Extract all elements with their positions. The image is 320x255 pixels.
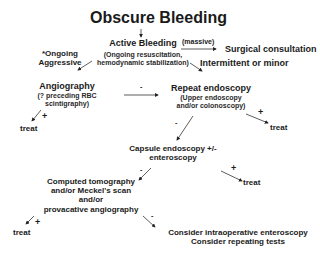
repeat-endoscopy-sub1: (Upper endoscopy (166, 94, 256, 102)
arrow-repeat-to-capsule (177, 116, 193, 140)
angiography-sub2: scintigraphy) (22, 100, 112, 108)
arrow-repeat-to-treat (246, 114, 268, 123)
active-bleeding-sub1: (Ongoing resuscitation, (96, 51, 190, 59)
edge-label-ct-neg: - (151, 212, 153, 219)
node-treat-2: treat (270, 123, 287, 132)
consider-line1: Consider intraoperative enteroscopy (163, 228, 313, 237)
capsule-line1: Capsule endoscopy +/- (118, 144, 228, 153)
active-bleeding-sub2: hemodynamic stabilization) (96, 59, 190, 67)
consider-line2: Consider repeating tests (163, 237, 313, 246)
edge-label-capsule-pos: + (231, 163, 236, 173)
repeat-endoscopy-label: Repeat endoscopy (166, 83, 256, 93)
edge-label-angio-neg: - (140, 83, 142, 90)
active-bleeding-label: Active Bleeding (96, 38, 190, 48)
node-treat-3: treat (243, 178, 260, 187)
arrow-ct-to-treat (26, 216, 34, 224)
edge-label-ct-pos: + (35, 217, 40, 227)
ct-line4: provacative angiography (36, 205, 146, 214)
node-repeat-endoscopy: Repeat endoscopy (Upper endoscopy and/or… (166, 83, 256, 110)
node-consider: Consider intraoperative enteroscopy Cons… (163, 228, 313, 246)
edge-label-repeat-neg: - (175, 119, 177, 126)
node-capsule-endoscopy: Capsule endoscopy +/- enteroscopy (118, 144, 228, 162)
ct-line1: Computed tomography (36, 177, 146, 186)
node-surgical-consultation: Surgical consultation (225, 44, 317, 54)
node-ct-meckels-angiography: Computed tomography and/or Meckel's scan… (36, 177, 146, 214)
capsule-line2: enteroscopy (118, 153, 228, 162)
node-active-bleeding: Active Bleeding (Ongoing resuscitation, … (96, 38, 190, 67)
edge-label-massive: (massive) (182, 38, 214, 45)
ongoing-aggressive-line1: *Ongoing (36, 49, 84, 58)
angiography-label: Angiography (22, 81, 112, 91)
node-treat-1: treat (20, 124, 37, 133)
node-ongoing-aggressive: *Ongoing Aggressive (36, 49, 84, 67)
node-angiography: Angiography (? preceding RBC scintigraph… (22, 81, 112, 108)
edge-label-capsule-neg: - (140, 166, 142, 173)
arrow-angio-to-treat (32, 110, 41, 121)
ongoing-aggressive-line2: Aggressive (36, 58, 84, 67)
ct-line2: and/or Meckel's scan (36, 186, 146, 195)
ct-line3: and/or (36, 195, 146, 204)
diagram-title: Obscure Bleeding (90, 9, 192, 27)
angiography-sub1: (? preceding RBC (22, 92, 112, 100)
edge-label-angio-pos: + (42, 111, 47, 121)
edge-label-repeat-pos: + (258, 107, 263, 117)
repeat-endoscopy-sub2: and/or colonoscopy) (166, 102, 256, 110)
node-intermittent-minor: Intermittent or minor (200, 58, 289, 68)
node-treat-4: treat (13, 228, 30, 237)
